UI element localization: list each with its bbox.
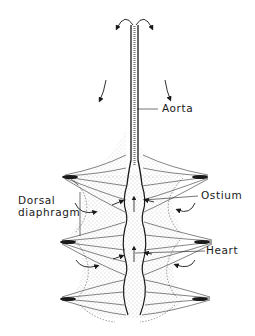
label-heart: Heart [206, 245, 238, 256]
label-ostium: Ostium [201, 190, 242, 201]
stippled-pericardial-region [70, 130, 185, 318]
dorsal-vessel-diagram: Aorta Dorsal diaphragm Ostium Heart [0, 0, 255, 336]
label-dorsal-diaphragm-line1: Dorsal [18, 195, 55, 206]
label-dorsal-diaphragm-line2: diaphragm [18, 207, 80, 218]
diagram-illustration [0, 0, 255, 336]
label-aorta: Aorta [162, 103, 193, 114]
